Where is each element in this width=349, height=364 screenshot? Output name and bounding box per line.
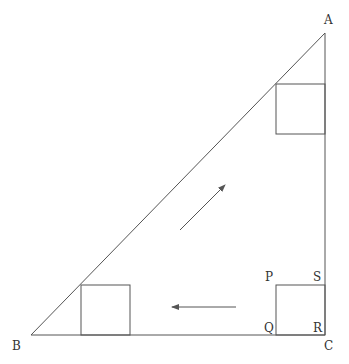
label-r: R — [313, 321, 323, 335]
label-p: P — [265, 270, 273, 284]
label-a: A — [323, 13, 333, 27]
label-b: B — [12, 339, 21, 353]
square-top — [276, 84, 325, 134]
square-left — [81, 285, 130, 335]
triangle-diagram: A B C P S Q R — [0, 0, 349, 364]
label-c: C — [324, 339, 333, 353]
arrow-diagonal — [180, 185, 225, 230]
label-s: S — [313, 270, 321, 284]
edge-ab — [31, 33, 325, 335]
label-q: Q — [264, 321, 274, 335]
